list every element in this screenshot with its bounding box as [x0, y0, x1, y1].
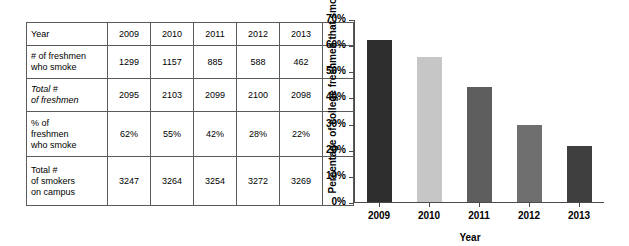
- table-cell: 42%: [194, 112, 237, 157]
- chart-x-tick-label: 2010: [406, 210, 452, 221]
- table-cell: 3264: [151, 157, 194, 206]
- freshmen-smoking-data-table: Year 2009 2010 2011 2012 2013 # of fresh…: [26, 22, 292, 202]
- chart-plot-area: 0%10%20%30%40%50%60%70% 2009201020112012…: [354, 20, 604, 203]
- table-cell: 588: [237, 46, 280, 79]
- table-cell: 1299: [108, 46, 151, 79]
- chart-y-tick-label: 60%: [306, 39, 346, 50]
- table-cell: 1157: [151, 46, 194, 79]
- chart-y-tick-mark: [349, 203, 354, 204]
- table-cell: 62%: [108, 112, 151, 157]
- table-cell: 2103: [151, 79, 194, 112]
- table-cell: 2009: [108, 23, 151, 46]
- chart-y-tick-label: 0%: [306, 196, 346, 207]
- chart-y-tick-label: 50%: [306, 65, 346, 76]
- table-cell: 2010: [151, 23, 194, 46]
- chart-x-tick-mark: [379, 203, 380, 207]
- chart-bar: [567, 146, 592, 202]
- chart-y-tick-label: 70%: [306, 13, 346, 24]
- chart-y-tick-label: 30%: [306, 118, 346, 129]
- table-row-label: # of freshmenwho smoke: [27, 46, 108, 79]
- chart-bar: [467, 87, 492, 202]
- table-cell: 2099: [194, 79, 237, 112]
- table-cell: 2011: [194, 23, 237, 46]
- chart-x-tick-label: 2012: [506, 210, 552, 221]
- chart-x-tick-label: 2011: [456, 210, 502, 221]
- chart-x-tick-mark: [579, 203, 580, 207]
- chart-x-tick-mark: [479, 203, 480, 207]
- chart-y-tick-label: 10%: [306, 170, 346, 181]
- table-cell: 2095: [108, 79, 151, 112]
- chart-x-tick-label: 2013: [556, 210, 602, 221]
- chart-x-tick-label: 2009: [356, 210, 402, 221]
- chart-bar: [367, 40, 392, 202]
- table-cell: 3254: [194, 157, 237, 206]
- table-cell: 2012: [237, 23, 280, 46]
- table-cell: 55%: [151, 112, 194, 157]
- chart-x-tick-mark: [529, 203, 530, 207]
- table-cell: 28%: [237, 112, 280, 157]
- chart-y-tick-label: 40%: [306, 91, 346, 102]
- chart-bar: [417, 57, 442, 202]
- chart-x-axis-title: Year: [340, 232, 600, 243]
- table-row-label: % offreshmenwho smoke: [27, 112, 108, 157]
- chart-y-tick: 0%: [354, 203, 355, 204]
- table-cell: 3247: [108, 157, 151, 206]
- chart-x-tick-mark: [429, 203, 430, 207]
- chart-bar: [517, 125, 542, 202]
- table-row-label: Year: [27, 23, 108, 46]
- table-row-label: Total #of smokerson campus: [27, 157, 108, 206]
- chart-bars: [354, 20, 604, 203]
- chart-y-tick-label: 20%: [306, 144, 346, 155]
- table-cell: 3272: [237, 157, 280, 206]
- table-row-label: Total #of freshmen: [27, 79, 108, 112]
- smoking-percentage-bar-chart: Percentage of college freshmen that smok…: [300, 0, 629, 246]
- table-cell: 2100: [237, 79, 280, 112]
- table-cell: 885: [194, 46, 237, 79]
